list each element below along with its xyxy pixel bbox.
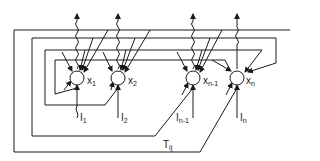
input-label-sub: n — [243, 117, 247, 124]
input-line-1 — [76, 85, 78, 118]
input-label-sub: 1 — [83, 117, 87, 124]
neuron-label-x1: x1 — [87, 76, 96, 87]
neuron-label-sub: n — [251, 80, 255, 87]
neuron-xn-1 — [186, 71, 200, 85]
neuron-label-sub: 2 — [133, 80, 137, 87]
neuron-label-sub: 1 — [92, 80, 96, 87]
output-wave-2 — [117, 14, 120, 69]
neuron-x1 — [70, 71, 84, 85]
neuron-x2 — [111, 71, 125, 85]
input-label-n: In — [240, 113, 247, 124]
input-label-sub: n-1 — [179, 117, 189, 124]
weights-label-sub: ij — [169, 144, 172, 151]
output-wave-n — [236, 14, 239, 69]
neuron-label-xn: xn — [246, 76, 255, 87]
input-label-n-1: In-1 — [176, 113, 189, 124]
input-label-1: I1 — [80, 113, 87, 124]
neuron-label-sub: n-1 — [208, 80, 218, 87]
input-label-sub: 2 — [124, 117, 128, 124]
output-wave-1 — [76, 14, 79, 69]
output-wave-n-1 — [192, 14, 195, 69]
weights-label-tij: Tij — [163, 140, 172, 151]
neuron-label-xn-1: xn-1 — [203, 76, 218, 87]
neuron-xn — [230, 71, 244, 85]
neuron-label-x2: x2 — [128, 76, 137, 87]
input-label-2: I2 — [121, 113, 128, 124]
